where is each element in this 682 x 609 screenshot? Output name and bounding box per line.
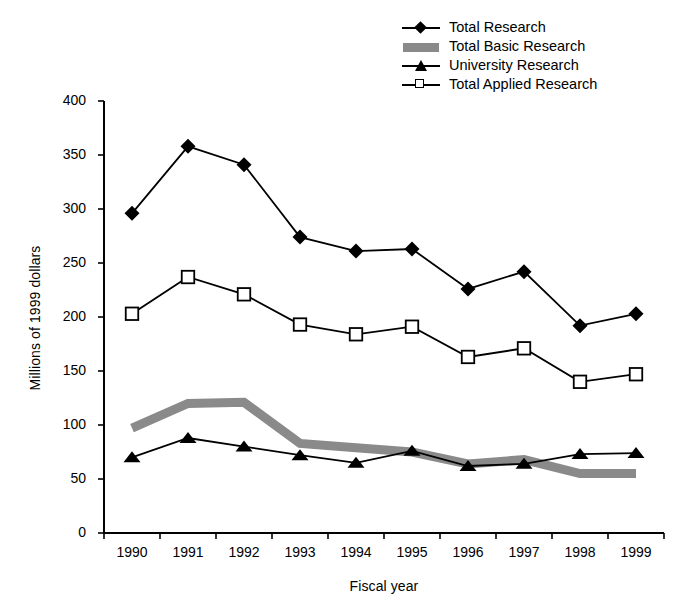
- square-marker-icon: [402, 76, 440, 94]
- y-tick-label: 250: [46, 254, 86, 270]
- data-point-square-icon: [630, 368, 643, 381]
- chart-legend: Total Research Total Basic Research Univ…: [402, 18, 652, 94]
- x-tick-label: 1998: [550, 544, 610, 560]
- legend-item-total-applied-research: Total Applied Research: [402, 75, 652, 94]
- data-point-diamond-icon: [237, 157, 252, 172]
- legend-item-university-research: University Research: [402, 56, 652, 75]
- x-tick-label: 1993: [270, 544, 330, 560]
- x-axis-title: Fiscal year: [104, 578, 664, 594]
- y-tick-label: 50: [46, 470, 86, 486]
- data-point-square-icon: [406, 320, 419, 333]
- x-tick-label: 1991: [158, 544, 218, 560]
- legend-label: Total Applied Research: [449, 75, 597, 94]
- diamond-marker-icon: [402, 19, 440, 37]
- data-point-diamond-icon: [629, 306, 644, 321]
- x-tick-label: 1990: [102, 544, 162, 560]
- y-tick-label: 150: [46, 362, 86, 378]
- y-tick-label: 350: [46, 146, 86, 162]
- legend-item-total-research: Total Research: [402, 18, 652, 37]
- data-point-square-icon: [238, 288, 251, 301]
- series-total-research: [125, 139, 644, 333]
- data-point-diamond-icon: [293, 230, 308, 245]
- data-point-diamond-icon: [349, 244, 364, 259]
- y-tick-label: 400: [46, 92, 86, 108]
- legend-item-total-basic-research: Total Basic Research: [402, 37, 652, 56]
- x-tick-label: 1992: [214, 544, 274, 560]
- series-total-applied-research: [126, 271, 643, 388]
- x-tick-label: 1994: [326, 544, 386, 560]
- chart-figure: Millions of 1999 dollars Fiscal year 050…: [0, 0, 682, 609]
- legend-label: Total Basic Research: [449, 37, 585, 56]
- x-tick-label: 1997: [494, 544, 554, 560]
- data-point-triangle-icon: [124, 451, 141, 462]
- series-line: [132, 402, 636, 473]
- data-point-square-icon: [518, 342, 531, 355]
- y-tick-label: 200: [46, 308, 86, 324]
- x-tick-label: 1999: [606, 544, 666, 560]
- data-point-square-icon: [294, 318, 307, 331]
- data-point-square-icon: [462, 351, 475, 364]
- data-point-square-icon: [182, 271, 195, 284]
- series-line: [132, 277, 636, 382]
- series-total-basic-research: [132, 402, 636, 473]
- triangle-marker-icon: [402, 57, 440, 75]
- data-point-square-icon: [350, 328, 363, 341]
- y-tick-label: 300: [46, 200, 86, 216]
- gray-band-icon: [402, 38, 440, 56]
- chart-series-group: [124, 139, 645, 474]
- data-point-square-icon: [574, 376, 587, 389]
- legend-label: Total Research: [449, 18, 546, 37]
- series-line: [132, 146, 636, 325]
- data-point-square-icon: [126, 308, 139, 321]
- data-point-diamond-icon: [461, 281, 476, 296]
- y-axis-title: Millions of 1999 dollars: [27, 198, 43, 438]
- x-tick-label: 1996: [438, 544, 498, 560]
- y-tick-label: 100: [46, 416, 86, 432]
- y-tick-label: 0: [46, 524, 86, 540]
- data-point-triangle-icon: [180, 432, 197, 443]
- data-point-diamond-icon: [405, 241, 420, 256]
- legend-label: University Research: [449, 56, 579, 75]
- x-tick-label: 1995: [382, 544, 442, 560]
